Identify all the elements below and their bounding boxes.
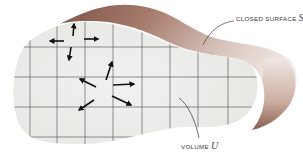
volume-text: VOLUME [181,143,209,150]
volume-symbol: U [211,140,218,151]
volume-label: VOLUMEU [181,140,218,151]
closed-surface-label: CLOSED SURFACES [236,12,303,23]
arrow-right-icon [113,84,134,85]
diagram-canvas [0,0,303,165]
surface-symbol: S [299,12,303,23]
divergence-diagram: CLOSED SURFACES VOLUMEU [0,0,303,165]
arrow-up-icon [73,24,74,36]
closed-surface-text: CLOSED SURFACE [236,15,297,22]
